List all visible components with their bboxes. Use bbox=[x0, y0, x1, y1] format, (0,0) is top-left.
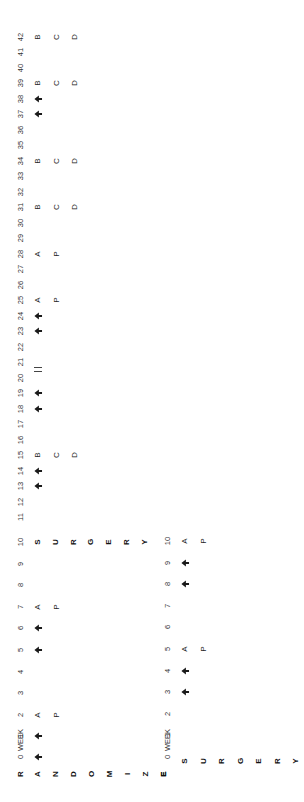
week-tick-label: 13 bbox=[17, 482, 25, 490]
week-tick-label: 3 bbox=[164, 690, 172, 694]
week-tick-label: 6 bbox=[164, 625, 172, 629]
week-tick-label: 38 bbox=[17, 94, 25, 102]
surgery-letter: E bbox=[255, 758, 263, 763]
week-tick-label: 14 bbox=[17, 466, 25, 474]
event-label: B bbox=[34, 34, 42, 39]
event-label: P bbox=[53, 297, 61, 302]
week-tick-label: 11 bbox=[17, 513, 25, 521]
surgery-letter: R bbox=[274, 758, 282, 764]
week-tick-label: 32 bbox=[17, 187, 25, 195]
week-tick-label: 20 bbox=[17, 373, 25, 381]
event-label: P bbox=[53, 251, 61, 256]
week-tick-label: 7 bbox=[17, 605, 25, 609]
week-tick-label: 25 bbox=[17, 296, 25, 304]
event-label: P bbox=[200, 538, 208, 543]
week-tick-label: 15 bbox=[17, 451, 25, 459]
surgery-letter: Y bbox=[292, 758, 300, 763]
week-tick-label: 5 bbox=[164, 647, 172, 651]
event-label: B bbox=[34, 452, 42, 457]
week-tick-label: 2 bbox=[17, 713, 25, 717]
week-tick-label: 6 bbox=[17, 626, 25, 630]
event-label: A bbox=[34, 604, 42, 609]
week-tick-label: 0 bbox=[17, 755, 25, 759]
event-label: B bbox=[34, 80, 42, 85]
event-label: P bbox=[53, 712, 61, 717]
week-tick-label: 16 bbox=[17, 435, 25, 443]
treatment-arrow-icon bbox=[34, 389, 43, 398]
week-tick-label: 10 bbox=[17, 538, 25, 546]
randomize-letter: I bbox=[124, 773, 132, 775]
week-tick-label: 2 bbox=[164, 712, 172, 716]
week-tick-label: 24 bbox=[17, 311, 25, 319]
week-tick-label: 23 bbox=[17, 327, 25, 335]
week-tick-label: 21 bbox=[17, 358, 25, 366]
event-label: D bbox=[71, 158, 79, 164]
week-axis-label: WEEK bbox=[17, 729, 25, 751]
event-label: C bbox=[53, 34, 61, 40]
week-tick-label: 34 bbox=[17, 156, 25, 164]
event-label: A bbox=[181, 646, 189, 651]
week-tick-label: 26 bbox=[17, 280, 25, 288]
treatment-arrow-icon bbox=[34, 482, 43, 491]
treatment-arrow-icon bbox=[181, 688, 190, 697]
week-tick-label: 27 bbox=[17, 265, 25, 273]
week-tick-label: 41 bbox=[17, 48, 25, 56]
surgery-letter: U bbox=[52, 539, 60, 545]
surgery-letter: G bbox=[87, 539, 95, 545]
event-label: C bbox=[53, 204, 61, 210]
week-tick-label: 8 bbox=[17, 583, 25, 587]
randomize-letter: N bbox=[52, 771, 60, 777]
event-label: C bbox=[53, 452, 61, 458]
week-tick-label: 18 bbox=[17, 404, 25, 412]
week-tick-label: 17 bbox=[17, 420, 25, 428]
randomize-letter: Z bbox=[142, 772, 150, 777]
week-tick-label: 33 bbox=[17, 172, 25, 180]
week-tick-label: 3 bbox=[17, 691, 25, 695]
week-tick-label: 1 bbox=[164, 733, 172, 737]
surgery-letter: R bbox=[70, 539, 78, 545]
week-tick-label: 4 bbox=[164, 669, 172, 673]
randomize-letter: A bbox=[34, 771, 42, 777]
treatment-arrow-icon bbox=[34, 466, 43, 475]
week-tick-label: 10 bbox=[164, 537, 172, 545]
surgery-letter: S bbox=[34, 539, 42, 544]
week-tick-label: 28 bbox=[17, 249, 25, 257]
week-tick-label: 4 bbox=[17, 670, 25, 674]
event-label: D bbox=[71, 80, 79, 86]
week-tick-label: 35 bbox=[17, 141, 25, 149]
week-tick-label: 1 bbox=[17, 734, 25, 738]
week-tick-label: 37 bbox=[17, 110, 25, 118]
event-label: B bbox=[34, 158, 42, 163]
week-tick-label: 5 bbox=[17, 648, 25, 652]
week-tick-label: 39 bbox=[17, 79, 25, 87]
week-tick-label: 0 bbox=[164, 755, 172, 759]
week-tick-label: 12 bbox=[17, 497, 25, 505]
randomize-letter: R bbox=[17, 771, 25, 777]
week-tick-label: 40 bbox=[17, 63, 25, 71]
week-tick-label: 9 bbox=[17, 562, 25, 566]
week-tick-label: 22 bbox=[17, 342, 25, 350]
treatment-arrow-icon bbox=[34, 110, 43, 119]
event-label: P bbox=[200, 646, 208, 651]
randomize-letter: E bbox=[160, 771, 168, 776]
treatment-arrow-icon bbox=[34, 646, 43, 655]
week-tick-label: 42 bbox=[17, 32, 25, 40]
event-label: C bbox=[53, 158, 61, 164]
event-label: A bbox=[181, 538, 189, 543]
week-tick-label: 8 bbox=[164, 582, 172, 586]
event-label: P bbox=[53, 604, 61, 609]
event-label: A bbox=[34, 297, 42, 302]
event-label: C bbox=[53, 80, 61, 86]
week-tick-label: 36 bbox=[17, 125, 25, 133]
surgery-letter: E bbox=[105, 539, 113, 544]
week-tick-label: 31 bbox=[17, 203, 25, 211]
event-label: A bbox=[34, 251, 42, 256]
treatment-arrow-icon bbox=[34, 732, 43, 741]
event-label: B bbox=[34, 204, 42, 209]
treatment-arrow-icon bbox=[34, 327, 43, 336]
surgery-letter: R bbox=[218, 758, 226, 764]
treatment-arrow-icon bbox=[34, 753, 43, 762]
treatment-arrow-icon bbox=[34, 404, 43, 413]
surgery-letter: S bbox=[181, 758, 189, 763]
week-tick-label: 29 bbox=[17, 234, 25, 242]
